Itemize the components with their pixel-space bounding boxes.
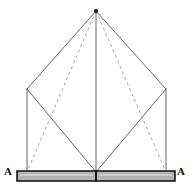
- inner-diagonal-right-line: [96, 89, 166, 172]
- diagram-canvas: A A: [0, 0, 192, 192]
- inner-diagonal-left-line: [27, 89, 96, 172]
- dashed-construction-group: [27, 11, 166, 172]
- dashed-apex-to-base-right-line: [96, 11, 166, 172]
- dashed-apex-to-base-left-line: [27, 11, 96, 172]
- base-bar-group: [17, 170, 175, 182]
- inner-diagonal-group: [27, 89, 166, 172]
- apex-point-marker: [94, 9, 98, 13]
- roof-outline-group: [27, 11, 166, 89]
- wall-outline-group: [27, 89, 166, 172]
- roof-slope-left-line: [27, 11, 96, 89]
- roof-slope-right-line: [96, 11, 166, 89]
- section-diagram-graphic: [0, 0, 192, 192]
- section-label-a-left: A: [4, 166, 12, 177]
- section-label-a-right: A: [177, 166, 185, 177]
